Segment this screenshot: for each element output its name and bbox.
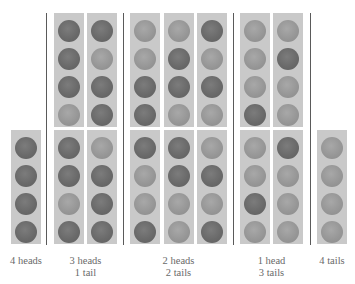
coin-head bbox=[134, 104, 156, 126]
group-label-line: 2 heads bbox=[163, 255, 195, 267]
group-label-line: 4 heads bbox=[10, 255, 42, 267]
coin-tail bbox=[91, 48, 113, 70]
group-label-4-tails: 4 tails bbox=[319, 255, 344, 267]
coin-head bbox=[91, 165, 113, 187]
outcome-column-top bbox=[164, 13, 194, 127]
coin-tail bbox=[134, 48, 156, 70]
group-label-line: 1 tail bbox=[70, 267, 102, 279]
coin-tail bbox=[277, 221, 299, 243]
coin-tail bbox=[201, 104, 223, 126]
coin-head bbox=[58, 165, 80, 187]
coin-tail bbox=[244, 221, 266, 243]
coin-tail bbox=[277, 193, 299, 215]
coin-head bbox=[15, 193, 37, 215]
group-label-3-heads-1-tail: 3 heads1 tail bbox=[70, 255, 102, 279]
coin-head bbox=[58, 20, 80, 42]
coin-head bbox=[201, 20, 223, 42]
group-label-line: 3 tails bbox=[258, 267, 286, 279]
coin-tail bbox=[244, 137, 266, 159]
coin-head bbox=[168, 165, 190, 187]
outcome-column-bottom bbox=[11, 130, 41, 244]
group-label-1-head-3-tails: 1 head3 tails bbox=[258, 255, 286, 279]
group-separator-line bbox=[46, 13, 47, 245]
coin-tail bbox=[58, 193, 80, 215]
coin-head bbox=[168, 76, 190, 98]
coin-head bbox=[91, 76, 113, 98]
coin-tail bbox=[321, 137, 343, 159]
coin-tail bbox=[201, 48, 223, 70]
coin-tail bbox=[134, 165, 156, 187]
coin-head bbox=[134, 137, 156, 159]
coin-head bbox=[244, 104, 266, 126]
coin-head bbox=[58, 221, 80, 243]
outcome-column-bottom bbox=[197, 130, 227, 244]
coin-head bbox=[277, 48, 299, 70]
coin-head bbox=[15, 221, 37, 243]
group-label-line: 3 heads bbox=[70, 255, 102, 267]
coin-tail bbox=[168, 20, 190, 42]
coin-tail bbox=[244, 76, 266, 98]
outcome-column-bottom bbox=[130, 130, 160, 244]
coin-tail bbox=[244, 48, 266, 70]
coin-tail bbox=[277, 104, 299, 126]
coin-head bbox=[91, 104, 113, 126]
coin-tail bbox=[277, 20, 299, 42]
outcome-column-top bbox=[130, 13, 160, 127]
outcome-column-bottom bbox=[240, 130, 270, 244]
coin-tail bbox=[168, 221, 190, 243]
outcome-column-bottom bbox=[164, 130, 194, 244]
group-separator-line bbox=[310, 13, 311, 245]
outcome-column-bottom bbox=[317, 130, 347, 244]
outcome-column-bottom bbox=[273, 130, 303, 244]
outcome-column-top bbox=[87, 13, 117, 127]
coin-tail bbox=[244, 165, 266, 187]
coin-head bbox=[58, 48, 80, 70]
coin-tail bbox=[321, 165, 343, 187]
coin-tail bbox=[277, 165, 299, 187]
coin-head bbox=[244, 193, 266, 215]
coin-head bbox=[201, 76, 223, 98]
coin-head bbox=[15, 165, 37, 187]
coin-head bbox=[91, 193, 113, 215]
group-label-4-heads: 4 heads bbox=[10, 255, 42, 267]
outcome-column-top bbox=[197, 13, 227, 127]
outcome-column-bottom bbox=[54, 130, 84, 244]
coin-head bbox=[91, 221, 113, 243]
group-separator-line bbox=[233, 13, 234, 245]
coin-tail bbox=[201, 193, 223, 215]
coin-tail bbox=[168, 193, 190, 215]
coin-head bbox=[58, 137, 80, 159]
coin-tail bbox=[91, 137, 113, 159]
coin-head bbox=[201, 165, 223, 187]
coin-tail bbox=[134, 20, 156, 42]
outcome-column-top bbox=[273, 13, 303, 127]
group-separator-line bbox=[123, 13, 124, 245]
coin-tail bbox=[201, 137, 223, 159]
coin-head bbox=[134, 221, 156, 243]
coin-tail bbox=[168, 104, 190, 126]
coin-tail bbox=[58, 104, 80, 126]
coin-head bbox=[58, 76, 80, 98]
group-label-2-heads-2-tails: 2 heads2 tails bbox=[163, 255, 195, 279]
coin-tail bbox=[244, 20, 266, 42]
coin-tail bbox=[321, 221, 343, 243]
coin-head bbox=[168, 48, 190, 70]
coin-tail bbox=[134, 193, 156, 215]
outcome-column-top bbox=[54, 13, 84, 127]
coin-tail bbox=[321, 193, 343, 215]
coin-head bbox=[15, 137, 37, 159]
group-label-line: 4 tails bbox=[319, 255, 344, 267]
coin-head bbox=[134, 76, 156, 98]
coin-head bbox=[201, 221, 223, 243]
coin-head bbox=[277, 137, 299, 159]
outcome-column-top bbox=[240, 13, 270, 127]
coin-tail bbox=[277, 76, 299, 98]
coin-head bbox=[91, 20, 113, 42]
group-label-line: 1 head bbox=[258, 255, 286, 267]
outcome-column-bottom bbox=[87, 130, 117, 244]
coin-toss-diagram: 4 heads3 heads1 tail2 heads2 tails1 head… bbox=[0, 0, 355, 284]
group-label-line: 2 tails bbox=[163, 267, 195, 279]
coin-head bbox=[168, 137, 190, 159]
